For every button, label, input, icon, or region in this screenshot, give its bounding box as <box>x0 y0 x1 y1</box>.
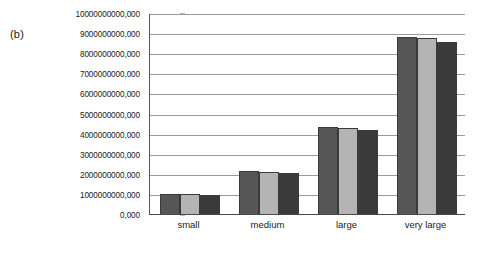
bar <box>417 38 437 215</box>
bar <box>397 37 417 215</box>
y-axis-tick-label: 4000000000,000 <box>80 130 140 139</box>
bar <box>160 194 180 215</box>
bar <box>318 127 338 215</box>
bar <box>259 172 279 215</box>
bar <box>239 171 259 215</box>
plot-area <box>149 14 465 215</box>
x-axis-tick-labels: smallmediumlargevery large <box>149 219 465 237</box>
x-axis-tick-label: small <box>177 219 199 230</box>
bar-group <box>318 14 378 215</box>
y-axis-tick-label: 0,000 <box>120 211 140 220</box>
y-axis-tick-label: 5000000000,000 <box>80 110 140 119</box>
x-axis-tick-label: very large <box>405 219 447 230</box>
y-axis-tick-labels: 0,0001000000000,0002000000000,0003000000… <box>36 14 144 215</box>
bar <box>437 42 457 215</box>
y-axis-tick-label: 2000000000,000 <box>80 170 140 179</box>
x-axis-tick-label: large <box>336 219 357 230</box>
bar <box>200 195 220 215</box>
x-axis-tick-label: medium <box>251 219 285 230</box>
y-axis-tick-label: 3000000000,000 <box>80 150 140 159</box>
bar <box>180 194 200 215</box>
y-axis-tick-label: 10000000000,000 <box>75 10 140 19</box>
y-axis-tick-label: 6000000000,000 <box>80 90 140 99</box>
bar <box>358 130 378 215</box>
bar <box>338 128 358 215</box>
y-axis-tick-label: 1000000000,000 <box>80 190 140 199</box>
x-axis-line <box>150 214 465 215</box>
y-axis-tick-label: 7000000000,000 <box>80 70 140 79</box>
bars-layer <box>150 14 465 215</box>
panel-label: (b) <box>10 28 24 40</box>
bar-group <box>160 14 220 215</box>
bar-group <box>239 14 299 215</box>
bar-group <box>397 14 457 215</box>
y-axis-tick-label: 9000000000,000 <box>80 30 140 39</box>
y-axis-tick-label: 8000000000,000 <box>80 50 140 59</box>
bar <box>279 173 299 215</box>
chart-figure: (b) 0,0001000000000,0002000000000,000300… <box>0 0 487 259</box>
